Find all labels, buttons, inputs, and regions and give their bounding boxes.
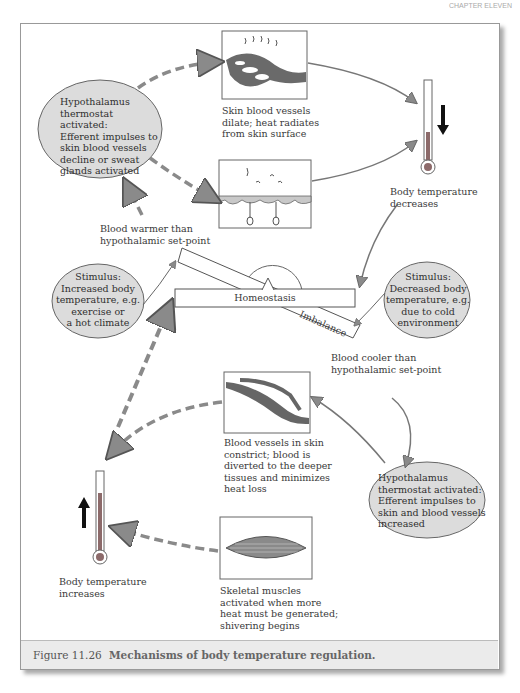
sweat-glands-image <box>219 160 311 228</box>
text-line: Body temperature <box>59 576 147 588</box>
figure-caption: Figure 11.26 Mechanisms of body temperat… <box>21 640 498 669</box>
text-line: Skin blood vessels <box>222 105 319 117</box>
hypothalamus-heat-loss-ellipse: Hypothalamus thermostat activated: Effer… <box>60 96 160 177</box>
text-line: glands activated <box>60 165 160 177</box>
text-line: activated when more <box>220 597 338 609</box>
thermometer-decreasing-image <box>421 80 449 174</box>
text-line: heat loss <box>224 483 332 495</box>
text-line: Blood cooler than <box>331 352 441 364</box>
text-line: environment <box>385 317 471 329</box>
text-line: Hypothalamus <box>60 96 160 108</box>
text-line: skin and blood vessels <box>378 507 486 519</box>
text-line: Hypothalamus <box>378 472 486 484</box>
blood-warmer-label: Blood warmer than hypothalamic set-point <box>100 223 210 246</box>
text-line: hypothalamic set-point <box>331 364 441 376</box>
temp-increases-label: Body temperature increases <box>59 576 147 599</box>
hypothalamus-heat-gain-ellipse: Hypothalamus thermostat activated: Effer… <box>378 472 486 530</box>
text-line: diverted to the deeper <box>224 460 332 472</box>
skeletal-muscle-image <box>220 517 312 579</box>
text-line: temperature, e.g. <box>385 294 471 306</box>
text-line: skin blood vessels <box>60 142 160 154</box>
skin-vessel-constrict-image <box>224 372 310 433</box>
thermometer-increasing-image <box>78 471 107 564</box>
text-line: dilate; heat radiates <box>222 117 319 129</box>
text-line: Efferent impulses to <box>60 131 160 143</box>
text-line: hypothalamic set-point <box>100 235 210 247</box>
constrict-label: Blood vessels in skin constrict; blood i… <box>224 437 332 495</box>
text-line: thermostat activated: <box>378 484 486 496</box>
text-line: Increased body <box>52 283 144 295</box>
text-line: decline or sweat <box>60 154 160 166</box>
text-line: Blood vessels in skin <box>224 437 332 449</box>
text-line: increases <box>59 588 147 600</box>
text-line: tissues and minimizes <box>224 472 332 484</box>
stimulus-hot-ellipse: Stimulus: Increased body temperature, e.… <box>52 271 144 329</box>
text-line: a hot climate <box>52 317 144 329</box>
caption-number: Figure 11.26 <box>33 649 102 661</box>
text-line: from skin surface <box>222 128 319 140</box>
text-line: Stimulus: <box>52 271 144 283</box>
up-arrow-icon <box>78 497 90 528</box>
text-line: temperature, e.g. <box>52 294 144 306</box>
stimulus-cold-ellipse: Stimulus: Decreased body temperature, e.… <box>385 271 471 329</box>
text-line: shivering begins <box>220 620 338 632</box>
text-line: constrict; blood is <box>224 449 332 461</box>
blood-cooler-label: Blood cooler than hypothalamic set-point <box>331 352 441 375</box>
caption-text: Mechanisms of body temperature regulatio… <box>109 649 375 661</box>
homeostasis-label: Homeostasis <box>175 292 355 304</box>
text-line: Efferent impulses to <box>378 495 486 507</box>
text-line: Skeletal muscles <box>220 585 338 597</box>
skin-vessel-dilate-image <box>222 31 307 99</box>
down-arrow-icon <box>437 105 449 135</box>
text-line: exercise or <box>52 306 144 318</box>
text-line: Body temperature <box>390 186 478 198</box>
text-line: Decreased body <box>385 283 471 295</box>
temp-decreases-label: Body temperature decreases <box>390 186 478 209</box>
text-line: Blood warmer than <box>100 223 210 235</box>
skin-dilate-label: Skin blood vessels dilate; heat radiates… <box>222 105 319 140</box>
text-line: Stimulus: <box>385 271 471 283</box>
muscles-label: Skeletal muscles activated when more hea… <box>220 585 338 631</box>
text-line: heat must be generated; <box>220 608 338 620</box>
text-line: due to cold <box>385 306 471 318</box>
text-line: increased <box>378 518 486 530</box>
text-line: decreases <box>390 198 478 210</box>
text-line: thermostat activated: <box>60 108 160 131</box>
